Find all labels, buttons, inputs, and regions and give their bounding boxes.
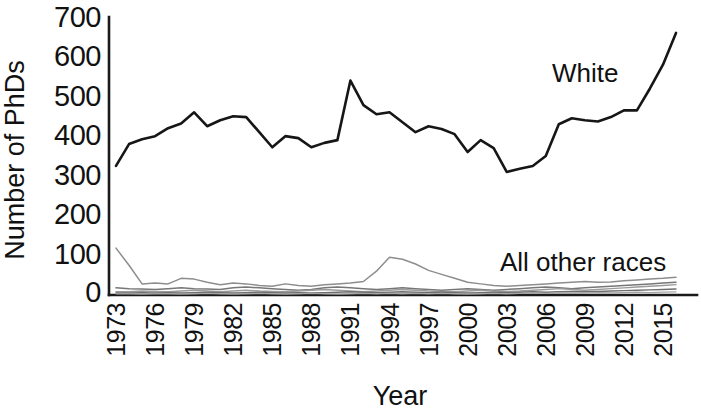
phd-line-chart: Number of PhDs 700 600 500 400 300 200 1…: [0, 0, 701, 413]
x-tick-1988: 1988: [297, 303, 325, 357]
x-tick-1994: 1994: [376, 302, 404, 356]
y-axis-title: Number of PhDs: [0, 60, 30, 260]
chart-figure: Number of PhDs 700 600 500 400 300 200 1…: [0, 0, 701, 413]
x-tick-1985: 1985: [258, 303, 286, 357]
y-tick-200: 200: [54, 198, 101, 230]
x-tick-1979: 1979: [180, 303, 208, 357]
y-tick-500: 500: [54, 80, 101, 112]
x-tick-2006: 2006: [532, 303, 560, 357]
x-tick-1991: 1991: [336, 303, 364, 357]
x-tick-2009: 2009: [571, 303, 599, 357]
y-axis-tick-labels: 700 600 500 400 300 200 100 0: [54, 1, 101, 308]
y-tick-600: 600: [54, 40, 101, 72]
series-label-all-other-races: All other races: [500, 247, 666, 277]
x-tick-2003: 2003: [493, 303, 521, 357]
y-tick-300: 300: [54, 159, 101, 191]
series-label-white: White: [552, 58, 618, 88]
y-tick-700: 700: [54, 1, 101, 33]
x-axis-title: Year: [373, 381, 428, 411]
x-tick-1973: 1973: [102, 303, 130, 357]
x-tick-2012: 2012: [610, 303, 638, 357]
x-tick-1976: 1976: [141, 303, 169, 357]
y-tick-0: 0: [85, 276, 101, 308]
x-tick-2015: 2015: [649, 303, 677, 357]
series-path-2: [116, 282, 676, 290]
series-path-0: [116, 33, 676, 172]
y-tick-100: 100: [54, 238, 101, 270]
x-axis-tick-labels: 1973197619791982198519881991199419972000…: [102, 302, 677, 356]
y-tick-400: 400: [54, 119, 101, 151]
x-tick-1982: 1982: [219, 303, 247, 357]
x-tick-1997: 1997: [415, 303, 443, 357]
x-tick-2000: 2000: [454, 303, 482, 357]
